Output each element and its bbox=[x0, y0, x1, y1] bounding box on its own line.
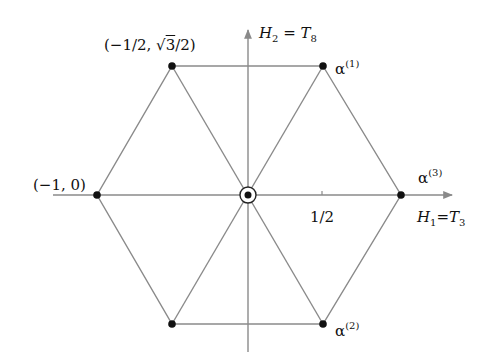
label-alpha-3: α(3) bbox=[418, 168, 442, 186]
alpha-superscript: (1) bbox=[345, 58, 359, 69]
alpha-symbol: α bbox=[418, 169, 428, 187]
point-alpha-1 bbox=[319, 62, 327, 70]
alpha-superscript: (2) bbox=[345, 320, 359, 331]
generator-symbol: T bbox=[301, 24, 311, 42]
point-minus-alpha-3 bbox=[93, 191, 101, 199]
generator-subscript: 8 bbox=[311, 33, 317, 44]
label-text: (−1, 0) bbox=[33, 176, 86, 194]
point-minus-alpha-2 bbox=[168, 62, 176, 70]
label-tick-half: 1/2 bbox=[310, 210, 334, 225]
equals-sign: = bbox=[278, 24, 300, 42]
generator-subscript: 3 bbox=[459, 217, 465, 228]
label-alpha-2: α(2) bbox=[335, 321, 359, 339]
label-minus-alpha-3: (−1, 0) bbox=[33, 178, 86, 193]
label-suffix: /2) bbox=[175, 36, 195, 54]
equals-sign: = bbox=[436, 208, 449, 226]
label-prefix: (−1/2, √ bbox=[104, 36, 166, 54]
axis-symbol: H bbox=[259, 24, 272, 42]
alpha-symbol: α bbox=[335, 322, 345, 340]
label-root: 3 bbox=[166, 36, 176, 54]
label-alpha-1: α(1) bbox=[335, 59, 359, 77]
axis-symbol: H bbox=[417, 208, 430, 226]
alpha-symbol: α bbox=[335, 60, 345, 78]
origin-dot bbox=[245, 192, 252, 199]
label-vertical-axis: H2 = T8 bbox=[259, 26, 317, 44]
point-minus-alpha-1 bbox=[168, 320, 176, 328]
label-horizontal-axis: H1=T3 bbox=[417, 210, 465, 228]
point-alpha-3 bbox=[397, 191, 405, 199]
alpha-superscript: (3) bbox=[428, 167, 442, 178]
label-minus-alpha-2: (−1/2, √3/2) bbox=[104, 38, 196, 53]
point-alpha-2 bbox=[319, 320, 327, 328]
tick-label: 1/2 bbox=[310, 208, 334, 226]
generator-symbol: T bbox=[449, 208, 459, 226]
